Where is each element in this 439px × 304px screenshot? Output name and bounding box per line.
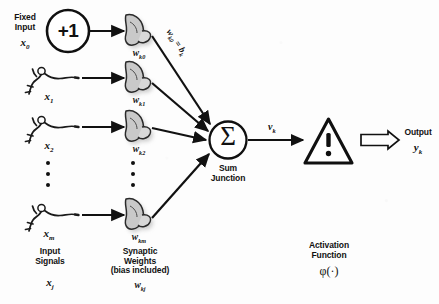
input-symbol-x1: x1 — [32, 90, 66, 106]
legend-synaptic-weights-symbol: wkj — [98, 280, 182, 293]
neuron-diagram-canvas: Fixed Input x0 +1 x1 x2 xm wk0 wk1 wk2 w… — [0, 0, 439, 304]
output-double-arrow — [361, 131, 399, 149]
fixed-input-symbol: x0 — [4, 36, 46, 52]
synapse-icon-wk0 — [125, 15, 153, 49]
weight-label-wkm: wkm — [117, 232, 161, 245]
sum-junction-caption: Sum Junction — [198, 164, 258, 183]
synapse-icon-wk1 — [125, 62, 153, 96]
weight-label-wk2: wk2 — [117, 144, 161, 157]
fixed-input-caption: Fixed Input — [4, 13, 46, 32]
legend-input-signals: Input Signals — [20, 247, 80, 266]
activation-function-symbol: φ(·) — [297, 265, 361, 278]
sum-junction-sigma: Σ — [208, 123, 248, 150]
warning-triangle-icon — [305, 119, 352, 163]
axon-tip-x2 — [75, 127, 79, 128]
induced-field-label: vk — [268, 121, 276, 134]
synapse-icon-wk2 — [125, 111, 153, 145]
axon-tip-xm — [75, 215, 79, 216]
activation-function-caption: Activation Function — [297, 241, 361, 260]
input-symbol-xm: xm — [32, 227, 66, 243]
fixed-input-node-value: +1 — [48, 20, 88, 41]
axon-tip-x1 — [75, 78, 79, 79]
synapse-icon-wkm — [125, 199, 153, 233]
weight-label-wk1: wk1 — [117, 95, 161, 108]
input-column-ellipsis — [46, 161, 50, 187]
output-caption: Output — [398, 128, 438, 138]
weight-column-ellipsis — [131, 161, 135, 187]
arrow-wk2-to-sum — [152, 128, 206, 140]
legend-synaptic-weights: Synaptic Weights (bias included) — [98, 247, 182, 276]
weight-label-wk0: wk0 — [117, 48, 161, 61]
output-symbol: yk — [398, 141, 438, 157]
input-symbol-x2: x2 — [32, 139, 66, 155]
legend-input-signals-symbol: xj — [20, 276, 80, 292]
